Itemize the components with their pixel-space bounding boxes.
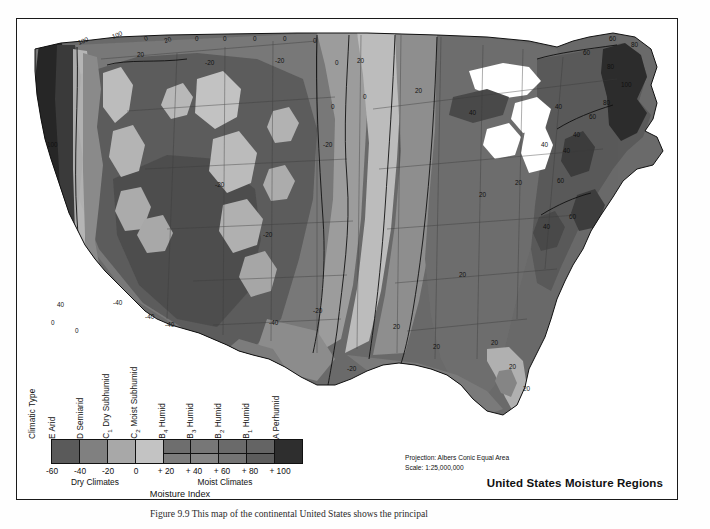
svg-text:-20: -20 bbox=[313, 307, 323, 314]
svg-text:0: 0 bbox=[51, 319, 55, 326]
legend-tick-5: + 40 bbox=[186, 466, 203, 476]
svg-text:20: 20 bbox=[509, 363, 517, 370]
legend-label-c1-dry-subhumid: C1 Dry Subhumid bbox=[102, 374, 113, 439]
svg-text:40: 40 bbox=[563, 147, 571, 154]
svg-text:80: 80 bbox=[603, 99, 611, 106]
svg-text:-20: -20 bbox=[263, 231, 273, 238]
svg-text:0: 0 bbox=[283, 35, 287, 42]
svg-text:40: 40 bbox=[541, 141, 549, 148]
svg-text:-20: -20 bbox=[205, 59, 215, 66]
svg-text:40: 40 bbox=[555, 103, 563, 110]
legend-group-moist-climates: Moist Climates bbox=[198, 477, 253, 487]
svg-text:60: 60 bbox=[583, 49, 591, 56]
svg-text:40: 40 bbox=[57, 301, 65, 308]
legend-swatch-b4-humid[interactable] bbox=[164, 440, 192, 463]
legend-color-bar[interactable] bbox=[51, 439, 303, 464]
legend-swatch-b2-humid[interactable] bbox=[219, 440, 247, 463]
svg-text:-20: -20 bbox=[347, 365, 357, 372]
legend-swatch-c1-dry-subhumid[interactable] bbox=[108, 440, 136, 463]
legend-swatch-d-semiarid[interactable] bbox=[80, 440, 108, 463]
svg-text:40: 40 bbox=[543, 223, 551, 230]
map-figure-frame: 100 100 0 20 0 0 0 0 0 100 40 0 0 20 -20… bbox=[16, 18, 678, 500]
svg-text:60: 60 bbox=[589, 113, 597, 120]
svg-text:0: 0 bbox=[331, 103, 335, 110]
legend-swatch-e-arid[interactable] bbox=[52, 440, 80, 463]
svg-text:0: 0 bbox=[253, 35, 257, 42]
svg-text:20: 20 bbox=[491, 339, 499, 346]
legend-tick-6: + 60 bbox=[214, 466, 231, 476]
legend-tick-7: + 80 bbox=[242, 466, 259, 476]
svg-text:20: 20 bbox=[393, 323, 401, 330]
legend-tick-1: -40 bbox=[74, 466, 86, 476]
legend-label-b2-humid: B2 Humid bbox=[214, 403, 225, 439]
legend-label-b3-humid: B3 Humid bbox=[186, 403, 197, 439]
svg-text:0: 0 bbox=[75, 327, 79, 334]
svg-text:0: 0 bbox=[335, 59, 339, 66]
svg-text:0: 0 bbox=[313, 37, 317, 44]
legend-swatch-a-perhumid[interactable] bbox=[275, 440, 302, 463]
projection-line: Projection: Albers Conic Equal Area bbox=[405, 453, 509, 463]
legend-swatch-b1-humid[interactable] bbox=[247, 440, 275, 463]
svg-text:-40: -40 bbox=[113, 299, 123, 306]
legend-header-climatic-type: Climatic Type bbox=[28, 389, 37, 439]
projection-note: Projection: Albers Conic Equal Area Scal… bbox=[405, 453, 509, 472]
svg-text:20: 20 bbox=[415, 87, 423, 94]
legend-swatch-b3-humid[interactable] bbox=[191, 440, 219, 463]
svg-text:100: 100 bbox=[621, 81, 632, 88]
legend-label-a-perhumid: A Perhumid bbox=[272, 396, 281, 439]
legend-group-labels: Dry Climates Moist Climates bbox=[35, 477, 325, 489]
svg-text:40: 40 bbox=[573, 131, 581, 138]
scale-line: Scale: 1:25,000,000 bbox=[405, 463, 509, 473]
svg-text:20: 20 bbox=[523, 385, 531, 392]
svg-text:40: 40 bbox=[469, 109, 477, 116]
legend-tick-8: + 100 bbox=[269, 466, 290, 476]
legend-label-e-arid: E Arid bbox=[48, 417, 57, 439]
svg-text:0: 0 bbox=[195, 35, 199, 42]
map-title: United States Moisture Regions bbox=[487, 477, 663, 489]
svg-text:20: 20 bbox=[357, 57, 365, 64]
figure-page: 100 100 0 20 0 0 0 0 0 100 40 0 0 20 -20… bbox=[0, 0, 710, 529]
legend-tick-2: -20 bbox=[102, 466, 114, 476]
svg-text:100: 100 bbox=[47, 141, 58, 148]
svg-text:60: 60 bbox=[609, 35, 617, 42]
legend-group-dry-climates: Dry Climates bbox=[71, 477, 119, 487]
svg-text:0: 0 bbox=[363, 93, 367, 100]
legend-swatch-c2-moist-subhumid[interactable] bbox=[136, 440, 164, 463]
legend-axis-title: Moisture Index bbox=[35, 489, 325, 499]
svg-text:20: 20 bbox=[433, 343, 441, 350]
svg-text:-20: -20 bbox=[323, 141, 333, 148]
svg-text:60: 60 bbox=[569, 213, 577, 220]
legend-tick-0: -60 bbox=[46, 466, 58, 476]
svg-text:20: 20 bbox=[459, 271, 467, 278]
svg-text:-40: -40 bbox=[165, 321, 175, 328]
legend-tick-4: + 20 bbox=[158, 466, 175, 476]
map-legend: Climatic Type E Arid D Semiarid C1 Dry S… bbox=[35, 377, 335, 489]
legend-tick-3: 0 bbox=[134, 466, 139, 476]
svg-text:60: 60 bbox=[557, 177, 565, 184]
legend-class-labels: Climatic Type E Arid D Semiarid C1 Dry S… bbox=[35, 377, 335, 439]
svg-text:80: 80 bbox=[631, 41, 639, 48]
svg-text:-40: -40 bbox=[145, 313, 155, 320]
svg-text:80: 80 bbox=[607, 63, 615, 70]
svg-text:-20: -20 bbox=[215, 181, 225, 188]
figure-caption: Figure 9.9 This map of the continental U… bbox=[150, 508, 670, 528]
legend-label-c2-moist-subhumid: C2 Moist Subhumid bbox=[130, 367, 141, 439]
svg-text:20: 20 bbox=[137, 51, 145, 58]
svg-text:-40: -40 bbox=[269, 319, 279, 326]
legend-label-d-semiarid: D Semiarid bbox=[76, 398, 85, 440]
svg-text:20: 20 bbox=[479, 191, 487, 198]
legend-label-b4-humid: B4 Humid bbox=[158, 403, 169, 439]
legend-label-b1-humid: B1 Humid bbox=[242, 403, 253, 439]
svg-text:-20: -20 bbox=[275, 57, 285, 64]
svg-text:0: 0 bbox=[223, 35, 227, 42]
svg-text:20: 20 bbox=[515, 179, 523, 186]
